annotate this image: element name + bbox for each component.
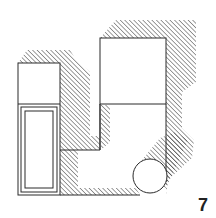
figure-number-label: 7 bbox=[198, 196, 208, 214]
figure-drawing bbox=[0, 0, 216, 218]
left-inner-panel-inner bbox=[25, 111, 53, 188]
cylinder bbox=[133, 159, 167, 193]
bottom-strip-shadow bbox=[60, 150, 140, 195]
middle-inner-shadow bbox=[101, 105, 110, 150]
right-upper-cube bbox=[100, 38, 166, 104]
